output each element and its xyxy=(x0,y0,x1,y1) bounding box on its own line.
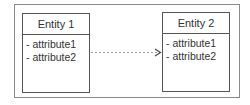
dependency-arrow xyxy=(0,0,250,105)
